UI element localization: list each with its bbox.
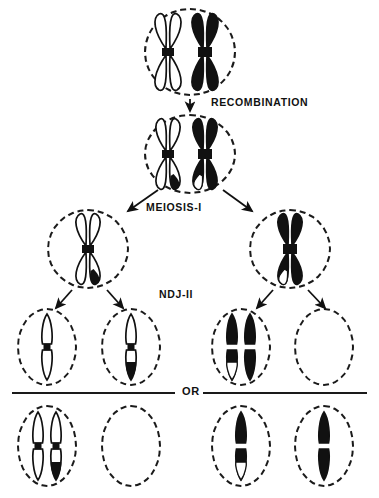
label-recombination: RECOMBINATION	[211, 96, 308, 108]
meiosis1-left-cell	[47, 209, 129, 289]
parent-cell	[144, 8, 236, 96]
arrow-ndj2-right-a	[257, 290, 273, 308]
gamete-1-2	[101, 308, 161, 386]
gamete-2-3	[211, 405, 271, 487]
label-or: OR	[177, 385, 205, 397]
gamete-1-3	[211, 308, 271, 386]
or-rule-right	[203, 392, 367, 394]
arrow-ndj2-left-a	[56, 290, 72, 308]
label-meiosis-1: MEIOSIS-I	[146, 201, 202, 213]
gamete-1-4	[294, 308, 354, 386]
recombined-cell	[144, 114, 236, 194]
label-ndj-2: NDJ-II	[159, 288, 193, 300]
gamete-2-1	[17, 405, 77, 487]
meiosis-nondisjunction-figure: RECOMBINATION MEIOSIS-I NDJ-II OR	[0, 0, 379, 498]
arrow-meiosis1-right	[223, 190, 252, 211]
meiosis1-right-cell	[249, 209, 331, 289]
gamete-2-2	[101, 405, 161, 487]
or-rule-left	[12, 392, 175, 394]
arrow-ndj2-left-b	[107, 290, 123, 308]
arrow-ndj2-right-b	[308, 290, 325, 308]
gamete-1-1	[17, 308, 77, 386]
gamete-2-4	[294, 405, 354, 487]
